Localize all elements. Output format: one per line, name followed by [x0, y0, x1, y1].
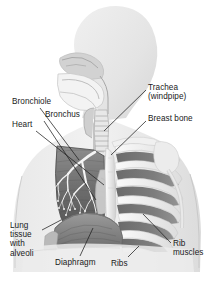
label-trachea-line-2: (windpipe) [148, 92, 186, 101]
label-bronchiole: Bronchiole [12, 97, 51, 106]
label-lung-tissue-line-3: with [10, 239, 25, 248]
label-lung-tissue-line-4: alveoli [10, 249, 34, 258]
respiratory-system-figure: Bronchiole Bronchus Heart Trachea(windpi… [0, 0, 217, 283]
label-rib-muscles-line-2: muscles [173, 248, 203, 257]
label-diaphragm: Diaphragm [55, 258, 96, 267]
label-lung-tissue-with-alveoli: Lungtissuewithalveoli [10, 221, 34, 258]
label-rib-muscles-line-1: Rib [173, 239, 185, 248]
label-trachea: Trachea(windpipe) [148, 83, 186, 101]
label-trachea-line-1: Trachea [148, 83, 178, 92]
label-breast-bone: Breast bone [148, 114, 193, 123]
label-lung-tissue-line-1: Lung [10, 221, 28, 230]
label-rib-muscles: Ribmuscles [173, 239, 203, 257]
label-heart: Heart [12, 120, 32, 129]
label-lung-tissue-line-2: tissue [10, 230, 32, 239]
label-layer: Bronchiole Bronchus Heart Trachea(windpi… [0, 0, 217, 283]
label-bronchus: Bronchus [45, 110, 80, 119]
label-ribs: Ribs [111, 259, 128, 268]
